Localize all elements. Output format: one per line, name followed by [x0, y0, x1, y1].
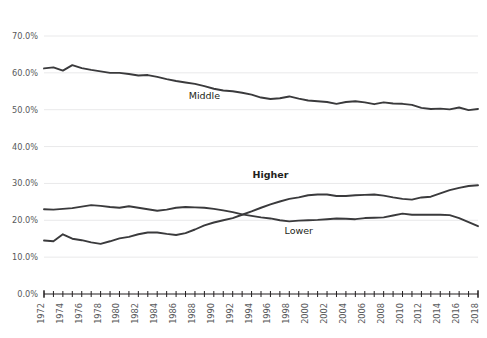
- x-axis-tick-label: 1994: [244, 303, 254, 324]
- y-axis-tick-label: 30.0%: [12, 178, 38, 188]
- y-axis-tick-label: 0.0%: [17, 289, 38, 299]
- x-axis-tick-label: 1998: [281, 303, 291, 324]
- x-axis-tick-label: 2018: [470, 303, 480, 324]
- x-axis-tick-label: 1992: [225, 303, 235, 324]
- x-axis-tick-label: 2004: [338, 303, 348, 324]
- data-series: [44, 65, 478, 244]
- x-axis-tick-label: 2000: [300, 303, 310, 324]
- y-axis-tick-label: 20.0%: [12, 215, 38, 225]
- series-line-middle: [44, 65, 478, 110]
- x-axis-tick-label: 1976: [74, 303, 84, 324]
- series-label-middle: Middle: [189, 90, 221, 101]
- x-axis-tick-label: 2016: [451, 303, 461, 324]
- x-axis-tick-label: 1996: [262, 303, 272, 324]
- y-axis-labels: 0.0%10.0%20.0%30.0%40.0%50.0%60.0%70.0%: [12, 31, 38, 299]
- gridlines: [44, 36, 478, 257]
- x-axis-tick-label: 1986: [168, 303, 178, 324]
- x-axis-tick-label: 2012: [413, 303, 423, 324]
- x-axis-tick-label: 2006: [357, 303, 367, 324]
- y-axis-tick-label: 60.0%: [12, 68, 38, 78]
- x-axis-tick-label: 1980: [111, 303, 121, 324]
- series-labels: MiddleHigherLower: [189, 90, 313, 236]
- x-axis-tick-label: 1990: [206, 303, 216, 324]
- series-label-lower: Lower: [285, 225, 314, 236]
- y-axis-tick-label: 70.0%: [12, 31, 38, 41]
- y-axis-tick-label: 40.0%: [12, 142, 38, 152]
- chart-canvas: 0.0%10.0%20.0%30.0%40.0%50.0%60.0%70.0% …: [0, 0, 487, 338]
- y-axis-tick-label: 10.0%: [12, 252, 38, 262]
- y-axis-tick-label: 50.0%: [12, 105, 38, 115]
- x-axis-tick-label: 2014: [432, 303, 442, 324]
- x-axis-tick-label: 1974: [55, 303, 65, 324]
- x-axis-tick-label: 2008: [376, 303, 386, 324]
- x-axis-tick-label: 1982: [130, 303, 140, 324]
- x-axis-labels: 1972197419761978198019821984198619881990…: [36, 303, 480, 324]
- x-axis-tick-label: 1972: [36, 303, 46, 324]
- x-axis-tick-label: 2002: [319, 303, 329, 324]
- series-label-higher: Higher: [252, 169, 288, 180]
- x-axis-tick-label: 1984: [149, 303, 159, 324]
- x-axis-tick-label: 2010: [395, 303, 405, 324]
- line-chart: 0.0%10.0%20.0%30.0%40.0%50.0%60.0%70.0% …: [0, 0, 487, 338]
- x-axis-tick-label: 1978: [93, 303, 103, 324]
- x-axis-tick-label: 1988: [187, 303, 197, 324]
